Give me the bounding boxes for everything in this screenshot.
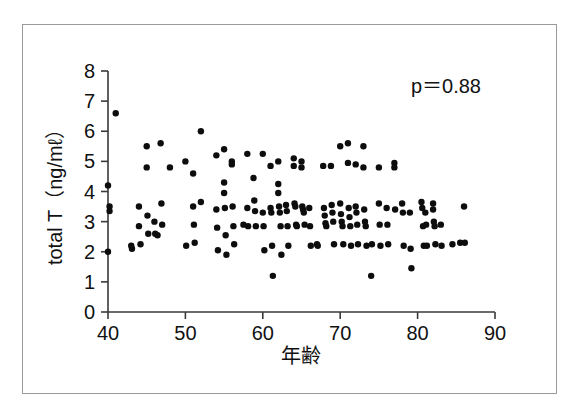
data-point <box>285 243 291 249</box>
x-axis-tick-labels: 405060708090 <box>97 322 506 344</box>
data-point <box>363 243 369 249</box>
data-point <box>136 223 142 229</box>
x-tick-label: 90 <box>484 322 506 344</box>
data-point <box>376 221 382 227</box>
data-point <box>306 205 312 211</box>
scatter-plot: 012345678 405060708090 年齢 total T（ng/mℓ）… <box>0 0 569 416</box>
data-point <box>277 209 283 215</box>
data-point <box>352 161 358 167</box>
data-point <box>190 203 196 209</box>
data-point <box>408 265 414 271</box>
data-point <box>260 223 266 229</box>
data-point <box>354 221 360 227</box>
data-point <box>320 163 326 169</box>
data-point <box>215 247 221 253</box>
data-point <box>113 110 119 116</box>
data-point <box>368 273 374 279</box>
data-point <box>144 212 150 218</box>
data-point <box>301 209 307 215</box>
data-point <box>328 202 334 208</box>
data-point <box>423 221 429 227</box>
data-point <box>418 199 424 205</box>
data-point <box>461 203 467 209</box>
data-point <box>321 205 327 211</box>
data-point <box>339 223 345 229</box>
data-point <box>105 182 111 188</box>
data-point <box>338 211 344 217</box>
x-tick-label: 70 <box>329 322 351 344</box>
data-point <box>385 241 391 247</box>
data-point <box>278 252 284 258</box>
data-point <box>268 209 274 215</box>
data-point <box>384 221 390 227</box>
data-point <box>407 209 413 215</box>
data-point <box>191 240 197 246</box>
data-point <box>391 164 397 170</box>
data-point <box>198 128 204 134</box>
p-value-annotation: p＝0.88 <box>411 75 481 97</box>
data-point <box>377 243 383 249</box>
data-point <box>360 164 366 170</box>
y-axis-title: total T（ng/mℓ） <box>44 119 66 265</box>
data-point <box>284 208 290 214</box>
data-point <box>230 223 236 229</box>
data-point <box>151 218 157 224</box>
data-point <box>245 223 251 229</box>
x-tick-label: 60 <box>252 322 274 344</box>
data-point <box>213 206 219 212</box>
data-point <box>363 223 369 229</box>
data-point <box>432 241 438 247</box>
data-point <box>137 241 143 247</box>
data-point <box>438 221 444 227</box>
y-tick-label: 1 <box>84 271 95 293</box>
data-point <box>346 205 352 211</box>
data-point <box>383 205 389 211</box>
data-point <box>301 221 307 227</box>
data-point <box>323 223 329 229</box>
data-point <box>221 146 227 152</box>
data-point <box>260 151 266 157</box>
data-point <box>276 203 282 209</box>
data-point <box>105 249 111 255</box>
data-point <box>284 223 290 229</box>
data-point <box>346 214 352 220</box>
data-point <box>244 151 250 157</box>
data-point <box>355 241 361 247</box>
data-point <box>191 221 197 227</box>
data-point <box>431 223 437 229</box>
data-point <box>190 170 196 176</box>
data-point <box>430 206 436 212</box>
data-point <box>144 143 150 149</box>
data-point <box>222 232 228 238</box>
data-point <box>158 200 164 206</box>
data-point <box>229 203 235 209</box>
data-point <box>329 209 335 215</box>
data-point <box>330 218 336 224</box>
data-point <box>399 200 405 206</box>
data-point <box>353 209 359 215</box>
data-point <box>270 273 276 279</box>
data-point <box>292 203 298 209</box>
data-point <box>182 158 188 164</box>
data-point <box>231 241 237 247</box>
data-point <box>183 243 189 249</box>
data-point <box>400 209 406 215</box>
data-point <box>221 179 227 185</box>
data-point <box>136 203 142 209</box>
y-axis-ticks <box>101 71 108 312</box>
y-tick-label: 8 <box>84 60 95 82</box>
x-tick-label: 50 <box>174 322 196 344</box>
data-point <box>352 203 358 209</box>
data-point <box>340 241 346 247</box>
data-point <box>252 208 258 214</box>
y-tick-label: 0 <box>84 301 95 323</box>
y-tick-label: 5 <box>84 150 95 172</box>
data-point <box>261 247 267 253</box>
data-point <box>308 243 314 249</box>
data-point <box>345 160 351 166</box>
data-point <box>392 206 398 212</box>
data-point <box>244 205 250 211</box>
data-point <box>422 209 428 215</box>
data-point <box>144 164 150 170</box>
data-point <box>229 161 235 167</box>
